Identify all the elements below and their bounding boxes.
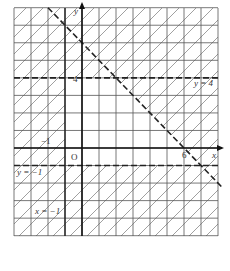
coordinate-plane: y x O 4 −1 6 y = 4 y = −1 x = −1 bbox=[0, 0, 230, 271]
tick-label-y-neg1: −1 bbox=[41, 136, 51, 146]
origin-label: O bbox=[71, 152, 78, 162]
label-y-eq-neg1: y = −1 bbox=[16, 167, 42, 177]
x-axis-label: x bbox=[211, 150, 216, 160]
x-axis-arrow-icon bbox=[217, 145, 224, 151]
y-axis-label: y bbox=[73, 6, 78, 16]
label-x-eq-neg1: x = −1 bbox=[34, 206, 60, 216]
label-y-eq-4: y = 4 bbox=[193, 78, 214, 88]
tick-label-y4: 4 bbox=[73, 74, 78, 84]
y-axis-arrow-icon bbox=[79, 2, 85, 9]
tick-label-x6: 6 bbox=[182, 150, 187, 160]
